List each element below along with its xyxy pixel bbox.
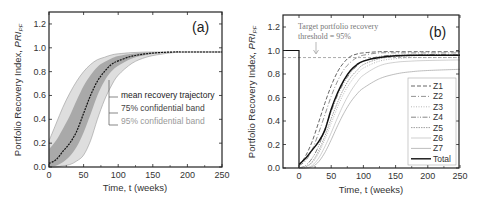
y-tick-label: 0.8: [33, 67, 46, 77]
y-tick-label: 1.2: [267, 22, 280, 32]
pre-event-step: [283, 51, 299, 169]
legend-95-band: 95% confidential band: [121, 116, 205, 126]
chart-panel-b: 050100150200250 0.00.20.40.60.81.01.2 (b…: [246, 15, 468, 195]
legend-item-z7: Z7: [433, 143, 443, 153]
legend-item-z2: Z2: [433, 91, 443, 101]
panel-label-b: (b): [429, 24, 446, 40]
x-tick-label: 200: [420, 171, 435, 181]
threshold-annotation-line1: Target portfolio recovery: [298, 22, 378, 31]
legend-item-z3: Z3: [433, 102, 443, 112]
y-tick-label: 0.4: [267, 116, 280, 126]
legend-mean: mean recovery trajectory: [121, 90, 215, 100]
x-tick-label: 100: [111, 170, 126, 180]
y-tick-label: 0.6: [33, 90, 46, 100]
x-tick-label: 0: [296, 171, 301, 181]
y-tick-label: 0.0: [33, 162, 46, 172]
legend-item-z1: Z1: [433, 81, 443, 91]
x-tick-label: 250: [214, 170, 229, 180]
legend-item-z5: Z5: [433, 123, 443, 133]
panel-label-a: (a): [192, 19, 209, 35]
legend-a: mean recovery trajectory 75% confidentia…: [109, 80, 215, 126]
x-tick-label: 250: [452, 171, 467, 181]
y-tick-label: 1.0: [267, 46, 280, 56]
y-tick-label: 1.2: [33, 19, 46, 29]
y-tick-label: 0.2: [33, 138, 46, 148]
y-tick-label: 0.8: [267, 69, 280, 79]
x-tick-label: 100: [356, 171, 371, 181]
legend-item-total: Total: [433, 154, 451, 164]
legend-b: Z1Z2Z3Z4Z5Z6Z7Total: [408, 78, 456, 165]
y-tick-label: 0.0: [267, 163, 280, 173]
x-axis-label-b: Time, t (weeks): [339, 184, 404, 195]
y-axis-label-b: Portfolio Recovery Index, PRIPF: [246, 26, 258, 159]
x-tick-label: 0: [46, 170, 51, 180]
chart-panel-a: 050100150200250 0.00.20.40.60.81.01.2 (a…: [12, 12, 230, 193]
x-tick-label: 150: [388, 171, 403, 181]
x-axis-label-a: Time, t (weeks): [103, 182, 168, 193]
x-tick-label: 200: [180, 170, 195, 180]
y-axis-label-a: Portfolio Recovery Index, PRIPF: [12, 24, 24, 157]
threshold-annotation-line2: threshold = 95%: [298, 32, 351, 41]
x-tick-label: 150: [145, 170, 160, 180]
y-tick-label: 0.2: [267, 140, 280, 150]
y-tick-label: 0.6: [267, 93, 280, 103]
x-tick-label: 50: [326, 171, 336, 181]
legend-item-z4: Z4: [433, 112, 443, 122]
x-tick-label: 50: [79, 170, 89, 180]
y-tick-label: 1.0: [33, 43, 46, 53]
y-tick-label: 0.4: [33, 114, 46, 124]
legend-item-z6: Z6: [433, 133, 443, 143]
chart-figure: 050100150200250 0.00.20.40.60.81.01.2 (a…: [0, 0, 478, 205]
legend-75-band: 75% confidential band: [121, 103, 205, 113]
